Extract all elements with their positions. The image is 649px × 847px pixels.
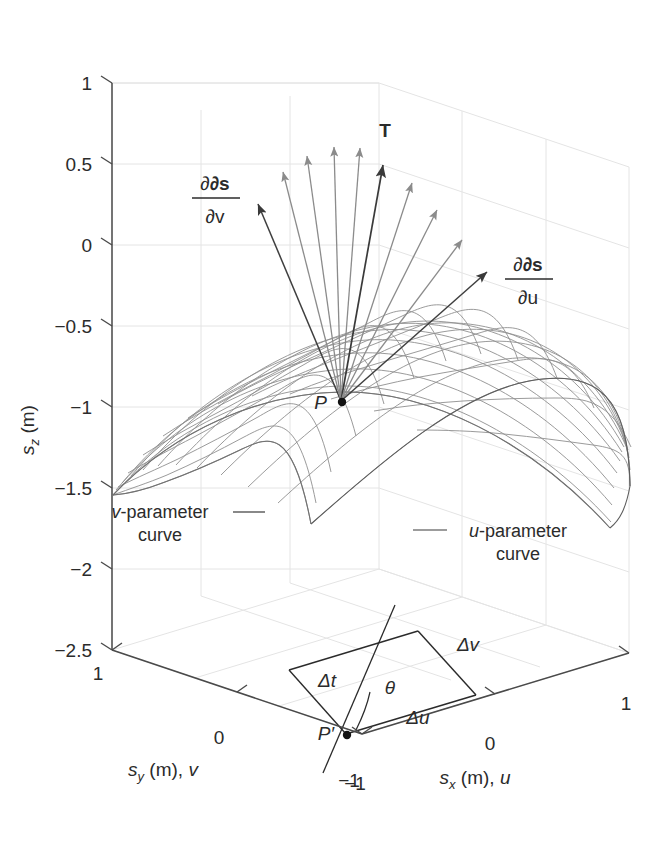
figure-container: 1 0.5 0 −0.5 −1 −1.5 −2 −2.5 sz (m) 1 0 … — [0, 0, 649, 847]
v-curve-line2: curve — [138, 525, 182, 545]
tangent-vector — [341, 210, 437, 401]
z-axis-ticks — [101, 76, 112, 650]
ds-du-numerator-s: ∂s — [523, 254, 543, 275]
y-axis-title: sy (m), v — [128, 759, 199, 784]
tangent-vector-T-label: T — [379, 120, 391, 141]
tangent-vector — [341, 148, 360, 401]
z-axis-title-symbol: s — [17, 445, 38, 455]
x-axis-title: sx (m), u — [440, 767, 511, 792]
label-leader-lines — [233, 512, 447, 530]
z-tick-label: −1.5 — [54, 478, 92, 499]
x-axis-title-param: u — [500, 767, 511, 788]
z-tick-label: 1 — [81, 73, 92, 94]
svg-text:∂u: ∂u — [518, 287, 538, 308]
x-tick-label: 1 — [621, 693, 632, 714]
parallelogram-top-side — [289, 631, 418, 670]
svg-text:∂∂s: ∂∂s — [200, 173, 229, 194]
z-tick-label: −0.5 — [54, 316, 92, 337]
u-curve-param-letter: u — [469, 521, 479, 541]
svg-text:u-parameter: u-parameter — [469, 521, 567, 541]
vector-ds-du — [341, 272, 487, 401]
z-tick-label: −2.5 — [54, 640, 92, 661]
svg-text:∂∂s: ∂∂s — [513, 254, 542, 275]
point-Pprime-marker — [343, 731, 351, 739]
svg-text:v-parameter: v-parameter — [111, 502, 208, 522]
z-tick-label: −1 — [70, 397, 92, 418]
delta-v-label: Δv — [456, 634, 481, 655]
ds-du-numerator-partial: ∂ — [513, 254, 522, 275]
point-Pprime-label: P′ — [318, 723, 336, 744]
ds-dv-numerator-s: ∂s — [210, 173, 230, 194]
svg-text:sx (m), u: sx (m), u — [440, 767, 511, 792]
z-tick-label: 0 — [81, 235, 92, 256]
point-P-marker — [338, 398, 346, 406]
y-axis-title-symbol: s — [128, 759, 138, 780]
axis-lines — [112, 83, 629, 734]
tangent-vector — [341, 183, 412, 401]
u-curve-line2: curve — [496, 544, 540, 564]
v-parameter-curve-label: v-parameter curve — [111, 502, 208, 545]
y-tick-label: 1 — [93, 663, 104, 684]
grid-planes — [112, 83, 629, 734]
z-tick-label: −2 — [70, 559, 92, 580]
v-curve-param-rest: -parameter — [120, 502, 208, 522]
ds-du-denominator: ∂u — [518, 287, 538, 308]
vector-T — [341, 165, 383, 401]
z-axis-title: sz (m) — [17, 405, 42, 455]
tangent-vector — [334, 147, 341, 401]
x-axis-line — [362, 653, 629, 734]
vector-ds-dv — [258, 204, 341, 401]
x-axis-title-unit: (m), — [456, 767, 500, 788]
figure-svg: 1 0.5 0 −0.5 −1 −1.5 −2 −2.5 sz (m) 1 0 … — [0, 0, 649, 847]
y-tick-label: 0 — [214, 727, 225, 748]
svg-text:∂v: ∂v — [206, 206, 225, 227]
delta-u-label: Δu — [405, 707, 430, 728]
theta-label: θ — [385, 677, 396, 698]
y-axis-title-unit: (m), — [144, 759, 188, 780]
point-P-label: P — [314, 392, 327, 413]
z-axis-title-unit: (m) — [17, 405, 38, 439]
u-parameter-curve-label: u-parameter curve — [469, 521, 567, 564]
u-curve-param-rest: -parameter — [479, 521, 567, 541]
theta-arc — [356, 692, 370, 730]
x-axis-title-symbol: s — [440, 767, 450, 788]
ds-dv-denominator: ∂v — [206, 206, 225, 227]
delta-t-label: Δt — [317, 670, 337, 691]
tangent-vector — [341, 240, 462, 401]
svg-text:sz (m): sz (m) — [17, 405, 42, 455]
ds-dv-numerator-partial: ∂ — [200, 173, 209, 194]
z-tick-label: 0.5 — [66, 154, 92, 175]
x-tick-label: −1 — [344, 773, 366, 794]
z-tick-labels: 1 0.5 0 −0.5 −1 −1.5 −2 −2.5 — [54, 73, 92, 661]
x-tick-label: 0 — [485, 733, 496, 754]
svg-text:sy (m), v: sy (m), v — [128, 759, 199, 784]
ds-dv-label: ∂∂s ∂v — [192, 173, 240, 227]
y-axis-title-param: v — [188, 759, 199, 780]
